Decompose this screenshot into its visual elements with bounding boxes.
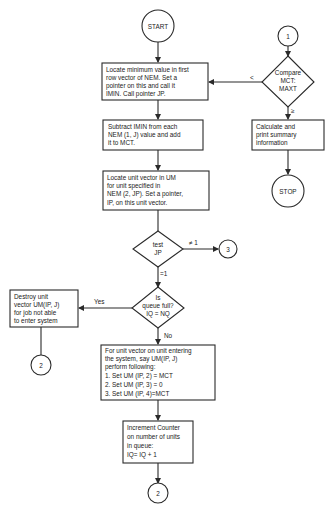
destroy-line-2: vector UM(IP, J) [14, 301, 59, 309]
process-increment-counter: Increment Counter on number of units in … [123, 421, 193, 463]
locate-unit-line-2: for unit specified in [107, 182, 161, 190]
start-terminal: START [142, 10, 174, 42]
connector-1-label: 1 [286, 33, 290, 40]
start-label: START [148, 23, 168, 30]
stop-terminal: STOP [272, 175, 304, 207]
unit-entering-line-3: perform following: [105, 363, 156, 371]
subtract-line-1: Subtract IMIN from each [108, 123, 178, 130]
connector-2-bottom: 2 [148, 483, 168, 503]
compare-line-3: MAXT [279, 85, 297, 92]
increment-line-3: in queue: [127, 442, 154, 450]
connector-2-left: 2 [31, 355, 51, 375]
decision-test-jp: test JP [133, 231, 183, 267]
increment-line-1: Increment Counter [127, 424, 181, 431]
unit-entering-line-6: 3. Set UM (IP, 4)=MCT [105, 390, 169, 398]
calc-line-2: print summary [256, 131, 297, 139]
connector-3-label: 3 [226, 246, 230, 253]
process-destroy-unit: Destroy unit vector UM(IP, J) for job no… [10, 290, 78, 327]
destroy-line-3: for job not able [14, 309, 57, 317]
flowchart-canvas: START Locate minimum value in first row … [0, 0, 327, 509]
compare-line-2: MCT: [281, 77, 296, 84]
locate-unit-line-1: Locate unit vector in UM [107, 174, 176, 181]
process-locate-unit: Locate unit vector in UM for unit specif… [103, 171, 209, 210]
connector-3: 3 [219, 240, 237, 258]
connector-1: 1 [278, 26, 298, 46]
edge-label-yes: Yes [94, 298, 104, 305]
edge-label-ge: ≥ [291, 107, 295, 114]
edge-label-no: No [164, 332, 173, 339]
queue-line-3: IQ = NQ [146, 310, 170, 318]
increment-line-4: IQ= IQ + 1 [127, 451, 157, 459]
destroy-line-4: to enter system [14, 317, 58, 325]
test-jp-line-1: test [153, 241, 164, 248]
process-subtract: Subtract IMIN from each NEM (1, J) value… [103, 120, 203, 150]
locate-min-line-3: pointer on this and call it [106, 82, 175, 90]
decision-queue-full: Is queue full? IQ = NQ [132, 287, 184, 328]
unit-entering-line-5: 2. Set UM (IP, 3) = 0 [105, 381, 163, 389]
locate-unit-line-4: IP, on this unit vector. [107, 199, 167, 206]
process-locate-minimum: Locate minimum value in first row vector… [102, 63, 208, 100]
edge-label-less: < [250, 74, 254, 81]
destroy-line-1: Destroy unit [14, 293, 48, 301]
process-calculate-print: Calculate and print summary information [252, 120, 324, 150]
subtract-line-2: NEM (1, J) value and add [108, 131, 181, 139]
unit-entering-line-1: For unit vector on unit entering [105, 347, 192, 355]
locate-min-line-2: row vector of NEM. Set a [106, 74, 177, 81]
queue-line-1: Is [156, 294, 161, 301]
process-unit-entering: For unit vector on unit entering the sys… [101, 345, 215, 400]
locate-unit-line-3: NEM (2, JP). Set a pointer, [107, 190, 183, 198]
locate-min-line-4: IMIN. Call pointer JP. [106, 90, 166, 98]
connector-2-left-label: 2 [39, 362, 43, 369]
stop-label: STOP [279, 188, 296, 195]
unit-entering-line-4: 1. Set UM (IP, 2) = MCT [105, 372, 173, 380]
increment-line-2: on number of units [127, 433, 180, 440]
calc-line-3: information [256, 139, 288, 146]
edge-label-ne1: ≠ 1 [189, 239, 198, 246]
connector-2-bottom-label: 2 [156, 490, 160, 497]
calc-line-1: Calculate and [256, 123, 296, 130]
decision-compare: Compare MCT: MAXT [262, 56, 314, 107]
compare-line-1: Compare [275, 69, 302, 77]
queue-line-2: queue full? [142, 302, 174, 310]
locate-min-line-1: Locate minimum value in first [106, 66, 189, 73]
test-jp-line-2: JP [154, 249, 161, 256]
subtract-line-3: it to MCT. [108, 139, 135, 146]
edge-label-eq1: =1 [160, 270, 168, 277]
unit-entering-line-2: the system, say UM(IP, J) [105, 355, 177, 363]
